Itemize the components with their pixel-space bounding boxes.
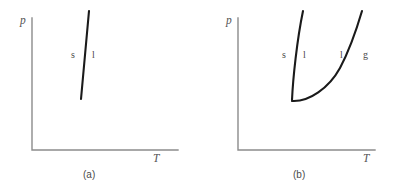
panel-a-caption: (a) [83, 170, 95, 180]
panel-a-x-axis-label: T [153, 153, 159, 165]
panel-b-caption: (b) [293, 170, 305, 180]
panel-b-x-axis-label: T [363, 153, 369, 165]
panel-b-phase-label-gas: g [363, 50, 368, 60]
panel-a-phase-label-solid: s [71, 50, 75, 60]
panel-b-phase-label-solid: s [282, 50, 286, 60]
panel-b-axes [238, 18, 375, 150]
panel-a-y-axis-label: p [20, 15, 26, 27]
panel-a-phase-label-liquid: l [92, 50, 95, 60]
panel-b-phase-label-liquid-right: l [340, 50, 343, 60]
panel-b-y-axis-label: p [226, 15, 232, 27]
panel-b-solid-liquid-boundary [292, 11, 303, 100]
panel-a-axes [32, 18, 178, 150]
panel-a-solid-liquid-boundary [81, 11, 89, 99]
panel-b-phase-label-liquid-left: l [303, 50, 306, 60]
phase-diagram-figure: p T s l (a) p T s l l g (b) [0, 0, 394, 193]
panel-a: p T s l (a) [0, 0, 197, 193]
panel-a-canvas [0, 0, 197, 193]
panel-b: p T s l l g (b) [197, 0, 394, 193]
